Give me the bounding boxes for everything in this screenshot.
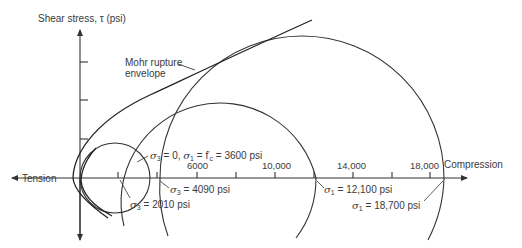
annotation-sigma3-2010: σ3 = 2010 psi xyxy=(130,199,190,211)
annotation-sigma3-4090: σ3 = 4090 psi xyxy=(170,184,230,196)
y-axis-label: Shear stress, τ (psi) xyxy=(38,13,126,24)
tick-18000: 18,000 xyxy=(410,160,439,171)
envelope-label-2: envelope xyxy=(125,68,166,79)
annotation-sigma1-12100: σ1 = 12,100 psi xyxy=(324,184,392,196)
tick-10000: 10,000 xyxy=(262,160,291,171)
tension-label: Tension xyxy=(22,173,56,184)
envelope-label-1: Mohr rupture xyxy=(125,57,183,68)
annotation-uniaxial: σ3 = 0, σ1 = f′c = 3600 psi xyxy=(150,150,262,162)
compression-label: Compression xyxy=(444,159,503,170)
annotation-sigma1-18700: σ1 = 18,700 psi xyxy=(352,200,420,212)
mohr-diagram: Shear stress, τ (psi) Mohr rupture envel… xyxy=(0,0,522,248)
tick-14000: 14,000 xyxy=(337,160,366,171)
